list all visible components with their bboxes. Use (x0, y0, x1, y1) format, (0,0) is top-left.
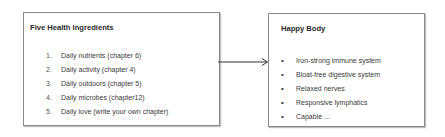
list-item: •Iron-strong immune system (281, 54, 381, 68)
list-item: 4.Daily microbes (chapter12) (46, 91, 168, 105)
list-text: Relaxed nerves (296, 85, 345, 92)
list-item: 2.Daily activity (chapter 4) (46, 63, 168, 77)
happy-body-box: Happy Body •Iron-strong immune system •B… (268, 13, 425, 127)
ingredients-title: Five Health Ingredients (30, 23, 114, 32)
list-number: 5. (46, 105, 61, 119)
list-item: 3.Daily outdoors (chapter 5) (46, 77, 168, 91)
bullet-icon: • (281, 54, 296, 68)
bullet-icon: • (281, 68, 296, 82)
list-text: Daily microbes (chapter12) (61, 94, 145, 101)
list-text: Capable ... (296, 113, 330, 120)
ingredients-box: Five Health Ingredients 1.Daily nutrient… (23, 12, 220, 126)
list-item: •Responsive lymphatics (281, 96, 381, 110)
list-item: •Bloat-free digestive system (281, 68, 381, 82)
ingredients-list: 1.Daily nutrients (chapter 6) 2.Daily ac… (46, 49, 168, 119)
list-item: •Capable ... (281, 110, 381, 124)
list-item: 1.Daily nutrients (chapter 6) (46, 49, 168, 63)
list-text: Daily nutrients (chapter 6) (61, 52, 141, 59)
arrow-right-icon (218, 56, 270, 68)
list-number: 1. (46, 49, 61, 63)
list-number: 4. (46, 91, 61, 105)
bullet-icon: • (281, 110, 296, 124)
list-number: 3. (46, 77, 61, 91)
happy-body-title: Happy Body (281, 24, 325, 33)
bullet-icon: • (281, 82, 296, 96)
list-text: Responsive lymphatics (296, 99, 368, 106)
list-item: 5.Daily love (write your own chapter) (46, 105, 168, 119)
list-text: Iron-strong immune system (296, 57, 381, 64)
list-text: Daily love (write your own chapter) (61, 108, 168, 115)
list-item: •Relaxed nerves (281, 82, 381, 96)
happy-body-list: •Iron-strong immune system •Bloat-free d… (281, 54, 381, 124)
list-number: 2. (46, 63, 61, 77)
list-text: Bloat-free digestive system (296, 71, 380, 78)
bullet-icon: • (281, 96, 296, 110)
list-text: Daily activity (chapter 4) (61, 66, 136, 73)
list-text: Daily outdoors (chapter 5) (61, 80, 142, 87)
